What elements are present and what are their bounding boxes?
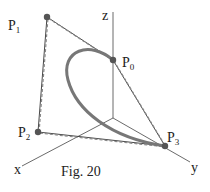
control-polygon <box>38 17 165 146</box>
label-p0: P0 <box>122 55 135 72</box>
label-z: z <box>102 8 108 23</box>
x-axis <box>22 118 113 166</box>
control-polygon-dashed <box>39 18 166 147</box>
label-p1: P1 <box>8 18 20 35</box>
point-p0 <box>110 57 116 63</box>
point-p1 <box>44 14 50 20</box>
label-x: x <box>14 162 21 177</box>
label-p3: P3 <box>167 130 180 147</box>
bezier-diagram: z x y P1 P0 P2 P3 Fig. 20 <box>0 0 210 192</box>
point-p2 <box>35 129 41 135</box>
label-p2: P2 <box>18 125 30 142</box>
label-y: y <box>191 160 198 175</box>
figure-caption: Fig. 20 <box>61 164 101 179</box>
